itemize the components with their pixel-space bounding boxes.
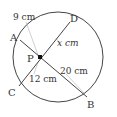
segment-label-AP: 9 cm [13,12,36,22]
point-P-marker [38,55,42,59]
point-label-A: A [9,32,18,43]
point-label-P: P [27,53,34,64]
point-label-D: D [70,13,78,24]
segment-label-PB: 20 cm [60,66,88,76]
leader-20cm [66,74,84,93]
leader-12cm [34,62,38,74]
point-label-C: C [8,87,16,98]
point-label-B: B [87,99,94,110]
intersecting-chords-diagram: A B C D P 9 cm x cm 12 cm 20 cm [0,0,117,117]
segment-label-PD: x cm [57,38,79,48]
segment-label-CP: 12 cm [29,74,57,84]
